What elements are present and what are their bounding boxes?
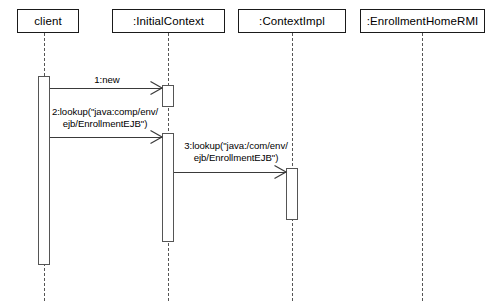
sequence-diagram: client :InitialContext :ContextImpl :Enr… [0, 0, 492, 301]
participant-enrollment-home-rmi: :EnrollmentHomeRMI [360, 9, 485, 33]
participant-context-impl-label: :ContextImpl [259, 15, 325, 27]
participant-initial-context-label: :InitialContext [133, 15, 204, 27]
participant-initial-context: :InitialContext [112, 9, 225, 33]
participant-enrollment-home-rmi-label: :EnrollmentHomeRMI [367, 15, 479, 27]
message-3-line [174, 172, 286, 173]
message-2-label: 2:lookup("java:comp/env/ ejb/EnrollmentE… [36, 106, 174, 129]
message-3-label: 3:lookup("java:/com/env/ ejb/EnrollmentE… [172, 140, 300, 163]
activation-bar-client [38, 76, 50, 265]
participant-context-impl: :ContextImpl [238, 9, 346, 33]
participant-client-label: client [34, 15, 61, 27]
participant-client: client [17, 9, 79, 33]
message-2-line [50, 137, 162, 138]
message-1-label: 1:new [62, 74, 152, 86]
lifeline-enrollment-home-rmi [422, 33, 423, 301]
message-1-line [50, 88, 162, 89]
lifeline-context-impl [292, 33, 293, 301]
